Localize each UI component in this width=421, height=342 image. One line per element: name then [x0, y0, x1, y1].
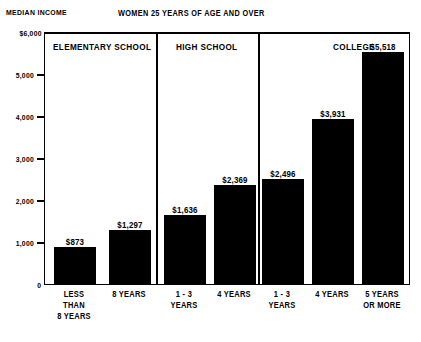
- bar-rect: [312, 119, 354, 284]
- y-axis: $6,0005,0004,0003,0002,0001,0000: [0, 0, 44, 342]
- y-axis-tick-mark: [37, 242, 44, 244]
- bar-value-label: $2,496: [269, 169, 298, 179]
- y-axis-tick-mark: [37, 200, 44, 202]
- bar-value-label: $1,297: [116, 220, 145, 230]
- x-axis-category-line: 8 YEARS: [43, 311, 105, 322]
- bar-rect: [54, 247, 96, 284]
- bar-value-label: $2,369: [221, 175, 250, 185]
- bar-value-text: $1,297: [117, 220, 142, 230]
- bar-value-label: $3,931: [319, 109, 348, 119]
- x-axis-category-line: OR MORE: [351, 300, 413, 311]
- bar-value-text: $5,518: [370, 42, 395, 52]
- x-axis-category-line: YEARS: [251, 300, 313, 311]
- x-axis-category-label: 5 YEARSOR MORE: [347, 289, 417, 311]
- panel-divider: [156, 34, 158, 284]
- panel-divider: [258, 34, 260, 284]
- bar: [164, 215, 206, 284]
- y-axis-tick-label: 4,000: [16, 113, 37, 122]
- y-axis-tick-label: 1,000: [16, 239, 37, 248]
- bar-rect: [214, 185, 256, 284]
- bar-rect: [262, 179, 304, 284]
- bar-value-label: $5,518: [369, 42, 398, 52]
- y-axis-tick-label: 5,000: [16, 71, 37, 80]
- x-axis-category-line: 5 YEARS: [351, 289, 413, 300]
- bar-value-text: $2,496: [270, 169, 295, 179]
- bar-rect: [164, 215, 206, 284]
- bar-value-text: $2,369: [222, 175, 247, 185]
- bar-value-text: $3,931: [320, 109, 345, 119]
- x-axis-category-line: THAN: [43, 300, 105, 311]
- bar: [214, 185, 256, 284]
- y-axis-tick-label: $6,000: [19, 29, 44, 38]
- y-axis-tick-label: 3,000: [16, 155, 37, 164]
- chart-title: WOMEN 25 YEARS OF AGE AND OVER: [118, 8, 265, 18]
- bar-value-text: $1,636: [172, 205, 197, 215]
- bar: [262, 179, 304, 284]
- y-axis-tick-mark: [37, 74, 44, 76]
- bar: [312, 119, 354, 284]
- bar: [109, 230, 151, 284]
- y-axis-tick-mark: [37, 158, 44, 160]
- bar: [362, 52, 404, 284]
- x-axis-category-line: YEARS: [153, 300, 215, 311]
- bar: [54, 247, 96, 284]
- bar-value-text: $873: [66, 237, 84, 247]
- panel-header: HIGH SCHOOL: [156, 41, 258, 52]
- panel-header: ELEMENTARY SCHOOL: [53, 41, 151, 52]
- y-axis-tick-label: 2,000: [16, 197, 37, 206]
- bar-rect: [362, 52, 404, 284]
- bar-rect: [109, 230, 151, 284]
- bar-value-label: $873: [65, 237, 86, 247]
- bar-value-label: $1,636: [171, 205, 200, 215]
- y-axis-tick-mark: [37, 116, 44, 118]
- plot-area: ELEMENTARY SCHOOLHIGH SCHOOLCOLLEGE$873$…: [44, 32, 410, 285]
